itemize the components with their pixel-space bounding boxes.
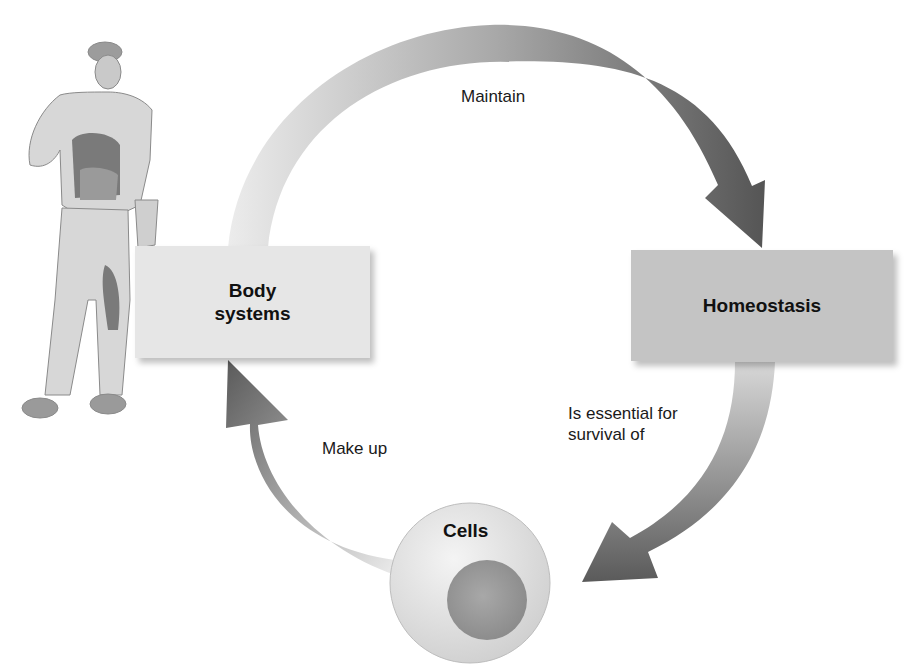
cells-label: Cells — [443, 520, 488, 542]
body-systems-label-line1: Body — [214, 279, 290, 302]
body-systems-node: Body systems — [135, 246, 370, 358]
human-anatomy-figure — [22, 42, 158, 418]
arrow-essential — [582, 362, 775, 582]
body-systems-label-line2: systems — [214, 302, 290, 325]
maintain-edge-label: Maintain — [461, 86, 525, 107]
essential-edge-label: Is essential for survival of — [568, 403, 678, 445]
make-up-edge-label: Make up — [322, 438, 387, 459]
arrow-maintain — [228, 25, 765, 248]
homeostasis-label: Homeostasis — [703, 294, 821, 317]
homeostasis-diagram: Body systems Homeostasis Cells Maintain … — [0, 0, 905, 669]
essential-edge-label-line2: survival of — [568, 424, 678, 445]
arrow-make-up — [226, 360, 395, 575]
homeostasis-node: Homeostasis — [631, 250, 893, 361]
essential-edge-label-line1: Is essential for — [568, 403, 678, 424]
